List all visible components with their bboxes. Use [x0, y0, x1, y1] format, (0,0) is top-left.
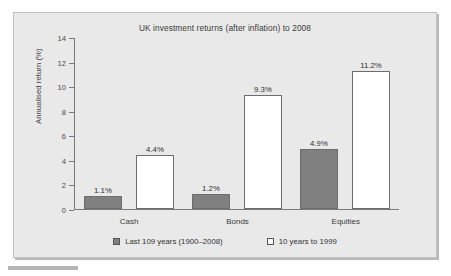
- legend-item-1[interactable]: 10 years to 1999: [267, 237, 337, 246]
- bar-groups: 1.1%4.4%1.2%9.3%4.9%11.2%: [75, 38, 399, 209]
- y-axis-tick-mark: [69, 87, 74, 88]
- x-axis-category-label: Bonds: [183, 217, 291, 226]
- legend-item-0[interactable]: Last 109 years (1900–2008): [113, 237, 223, 246]
- bar[interactable]: 1.1%: [84, 196, 122, 210]
- chart-legend: Last 109 years (1900–2008) 10 years to 1…: [14, 237, 436, 246]
- bar-value-label: 11.2%: [360, 61, 382, 70]
- x-axis-line: [74, 209, 399, 210]
- y-axis-tick-mark: [69, 161, 74, 162]
- y-axis-tick-label: 10: [58, 83, 66, 92]
- bar-group: 1.1%4.4%: [75, 38, 183, 209]
- bar-value-label: 1.1%: [94, 186, 112, 195]
- y-axis-tick-label: 2: [62, 181, 66, 190]
- y-axis-tick-mark: [69, 210, 74, 211]
- y-axis-tick-label: 4: [62, 156, 66, 165]
- chart-figure-panel: UK investment returns (after inflation) …: [13, 12, 437, 258]
- legend-item-label: 10 years to 1999: [279, 237, 337, 246]
- y-axis-tick-mark: [69, 136, 74, 137]
- bar[interactable]: 4.9%: [300, 149, 338, 209]
- bar[interactable]: 4.4%: [136, 155, 174, 209]
- bar[interactable]: 1.2%: [192, 194, 230, 209]
- y-axis-tick-label: 6: [62, 132, 66, 141]
- plot-area: 02468101214 1.1%4.4%1.2%9.3%4.9%11.2%: [74, 38, 399, 210]
- y-axis-tick-label: 0: [62, 206, 66, 215]
- y-axis-title: Annualised return (%): [34, 48, 43, 124]
- legend-item-label: Last 109 years (1900–2008): [125, 237, 223, 246]
- empty-square-icon: [267, 238, 274, 245]
- bar-value-label: 4.4%: [146, 145, 164, 154]
- y-axis-tick-mark: [69, 38, 74, 39]
- bar-group: 4.9%11.2%: [291, 38, 399, 209]
- bar-value-label: 1.2%: [202, 184, 220, 193]
- x-axis-category-label: Cash: [75, 217, 183, 226]
- filled-square-icon: [113, 238, 120, 245]
- y-axis-tick-mark: [69, 63, 74, 64]
- y-axis-tick-label: 14: [58, 34, 66, 43]
- bar[interactable]: 9.3%: [244, 95, 282, 209]
- y-axis-tick-label: 8: [62, 107, 66, 116]
- bar-value-label: 4.9%: [310, 139, 328, 148]
- bar-value-label: 9.3%: [254, 85, 272, 94]
- caption-rule: [8, 266, 78, 270]
- x-axis-category-label: Equities: [292, 217, 400, 226]
- y-axis-tick-label: 12: [58, 58, 66, 67]
- y-axis-tick-mark: [69, 185, 74, 186]
- bar-group: 1.2%9.3%: [183, 38, 291, 209]
- y-axis-tick-mark: [69, 112, 74, 113]
- chart-title: UK investment returns (after inflation) …: [14, 23, 436, 33]
- x-axis-category-labels: CashBondsEquities: [75, 217, 400, 226]
- bar[interactable]: 11.2%: [352, 71, 390, 209]
